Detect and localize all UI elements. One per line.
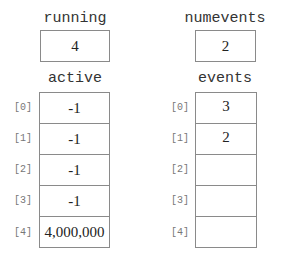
active-cell-2: -1	[40, 154, 109, 185]
active-index-0: [0]	[6, 102, 32, 114]
active-cell-3: -1	[40, 185, 109, 216]
active-index-3: [3]	[6, 195, 32, 207]
events-cell-1: 2	[196, 123, 256, 154]
events-cell-3	[196, 185, 256, 216]
active-index-2: [2]	[6, 164, 32, 176]
active-index-4: [4]	[6, 227, 32, 239]
events-index-0: [0]	[163, 102, 189, 114]
events-index-3: [3]	[163, 195, 189, 207]
active-label: active	[30, 71, 120, 87]
numevents-label: numevents	[180, 11, 270, 27]
running-label: running	[30, 11, 120, 27]
events-label: events	[180, 71, 270, 87]
active-cell-0: -1	[40, 93, 109, 123]
events-array: 3 2	[195, 92, 257, 248]
events-index-2: [2]	[163, 164, 189, 176]
active-cell-4: 4,000,000	[40, 216, 109, 247]
events-cell-0: 3	[196, 93, 256, 123]
active-array: -1 -1 -1 -1 4,000,000	[39, 92, 110, 248]
active-cell-1: -1	[40, 123, 109, 154]
events-cell-2	[196, 154, 256, 185]
events-cell-4	[196, 216, 256, 247]
events-index-1: [1]	[163, 133, 189, 145]
active-index-1: [1]	[6, 133, 32, 145]
running-value-box: 4	[40, 30, 110, 62]
events-index-4: [4]	[163, 227, 189, 239]
numevents-value-box: 2	[195, 30, 256, 62]
